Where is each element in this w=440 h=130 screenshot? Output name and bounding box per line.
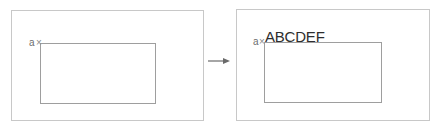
after-inner-rectangle [264, 42, 382, 103]
before-inner-rectangle [40, 43, 156, 104]
after-inserted-text: ABCDEF [265, 29, 325, 44]
before-anchor-label: a [29, 38, 35, 48]
transition-arrow-icon [207, 56, 231, 66]
after-anchor-label: a [253, 37, 259, 47]
before-anchor-marker-icon: × [36, 38, 42, 48]
after-anchor-marker-icon: × [259, 37, 265, 47]
